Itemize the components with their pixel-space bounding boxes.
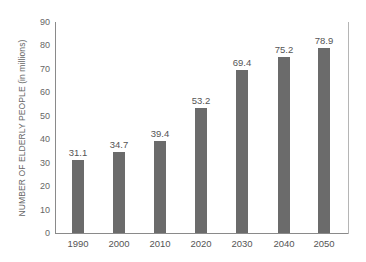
bar-2030: [236, 70, 248, 233]
y-tick-label: 80: [28, 40, 50, 50]
data-label: 34.7: [99, 140, 139, 150]
y-tick-label: 40: [28, 134, 50, 144]
bar-1990: [72, 160, 84, 233]
y-axis-line: [55, 22, 56, 234]
data-label: 31.1: [58, 148, 98, 158]
x-tick-label: 2020: [181, 238, 221, 249]
y-tick-label: 0: [28, 228, 50, 238]
y-tick-label: 20: [28, 181, 50, 191]
plot-right-border: [348, 22, 349, 234]
bar-2020: [195, 108, 207, 233]
y-tick-label: 10: [28, 205, 50, 215]
data-label: 75.2: [264, 45, 304, 55]
x-tick-label: 1990: [58, 238, 98, 249]
bar-2010: [154, 141, 166, 233]
y-tick-label: 30: [28, 158, 50, 168]
data-label: 69.4: [222, 58, 262, 68]
y-tick-label: 60: [28, 87, 50, 97]
x-tick-label: 2000: [99, 238, 139, 249]
y-tick-label: 90: [28, 17, 50, 27]
y-tick-label: 70: [28, 64, 50, 74]
y-tick-label: 50: [28, 111, 50, 121]
x-tick-label: 2010: [140, 238, 180, 249]
x-tick-label: 2040: [264, 238, 304, 249]
x-tick-label: 2030: [222, 238, 262, 249]
x-axis-line: [55, 233, 349, 234]
bar-2050: [318, 48, 330, 233]
data-label: 39.4: [140, 129, 180, 139]
data-label: 53.2: [181, 96, 221, 106]
y-axis-title: NUMBER OF ELDERLY PEOPLE (in millions): [17, 40, 27, 217]
bar-2040: [278, 57, 290, 233]
x-tick-label: 2050: [304, 238, 344, 249]
data-label: 78.9: [304, 36, 344, 46]
bar-2000: [113, 152, 125, 233]
